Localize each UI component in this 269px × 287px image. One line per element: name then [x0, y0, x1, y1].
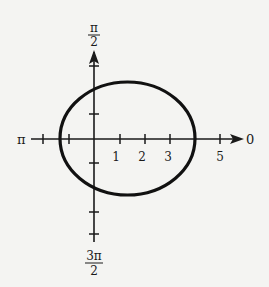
zero-label: 0 [246, 132, 254, 147]
polar-graph-figure: π 0 1 2 3 5 π 2 3π 2 [0, 0, 269, 287]
tick-label-2: 2 [138, 150, 146, 164]
svg-text:2: 2 [90, 264, 98, 278]
pi-label: π [17, 132, 26, 147]
tick-label-5: 5 [216, 150, 224, 164]
three-half-pi-label: 3π 2 [85, 249, 103, 278]
half-pi-label: π 2 [88, 21, 100, 49]
svg-text:π: π [90, 21, 98, 35]
polar-graph: π 0 1 2 3 5 π 2 3π 2 [0, 0, 269, 287]
tick-label-1: 1 [112, 150, 120, 164]
tick-label-3: 3 [164, 150, 172, 164]
svg-text:2: 2 [90, 35, 98, 49]
svg-text:3π: 3π [86, 249, 102, 263]
